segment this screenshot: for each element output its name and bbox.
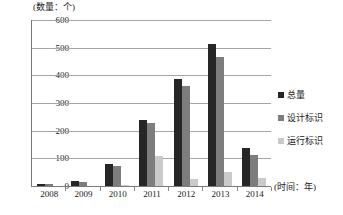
- legend-label: 总量: [287, 88, 305, 101]
- legend-swatch-icon: [278, 138, 284, 144]
- bar: [250, 155, 258, 186]
- bar-group: [237, 20, 271, 186]
- bar: [147, 123, 155, 186]
- chart-legend: 总量设计标识运行标识: [278, 88, 323, 147]
- bar: [45, 184, 53, 186]
- bar-group: [169, 20, 203, 186]
- legend-item[interactable]: 设计标识: [278, 111, 323, 124]
- x-axis-line: [31, 186, 271, 187]
- bar: [139, 120, 147, 186]
- bar-group: [100, 20, 134, 186]
- bar-groups: [32, 20, 271, 186]
- bar: [155, 156, 163, 186]
- x-axis-tick-label: 2008: [32, 189, 66, 199]
- legend-swatch-icon: [278, 92, 284, 98]
- legend-label: 运行标识: [287, 134, 323, 147]
- legend-item[interactable]: 总量: [278, 88, 323, 101]
- bar: [121, 185, 129, 186]
- x-axis-title: (时间：年): [274, 180, 316, 193]
- x-axis-tick-label: 2013: [203, 189, 237, 199]
- bar: [182, 86, 190, 186]
- bar: [258, 178, 266, 186]
- legend-swatch-icon: [278, 115, 284, 121]
- x-axis-tick-label: 2014: [238, 189, 272, 199]
- bar-group: [134, 20, 168, 186]
- bar: [224, 172, 232, 186]
- bar: [71, 181, 79, 186]
- bar-group: [66, 20, 100, 186]
- x-axis-tick-label: 2011: [135, 189, 169, 199]
- x-axis-tick-label: 2012: [169, 189, 203, 199]
- bar-group: [32, 20, 66, 186]
- legend-item[interactable]: 运行标识: [278, 134, 323, 147]
- bar: [105, 164, 113, 186]
- bar-chart: (数量：个) 6005004003002001000 2008200920102…: [0, 0, 343, 215]
- plot-area: [31, 20, 271, 187]
- x-axis-tick-label: 2010: [101, 189, 135, 199]
- bar: [79, 182, 87, 186]
- bar: [37, 184, 45, 186]
- bar: [190, 179, 198, 186]
- x-axis-tick-labels: 2008200920102011201220132014: [32, 189, 272, 199]
- y-axis-title: (数量：个): [33, 0, 75, 13]
- bar: [113, 166, 121, 186]
- bar: [242, 148, 250, 186]
- legend-label: 设计标识: [287, 111, 323, 124]
- bar-group: [203, 20, 237, 186]
- bar: [208, 44, 216, 186]
- bar: [174, 79, 182, 186]
- x-axis-tick-label: 2009: [66, 189, 100, 199]
- bar: [216, 57, 224, 186]
